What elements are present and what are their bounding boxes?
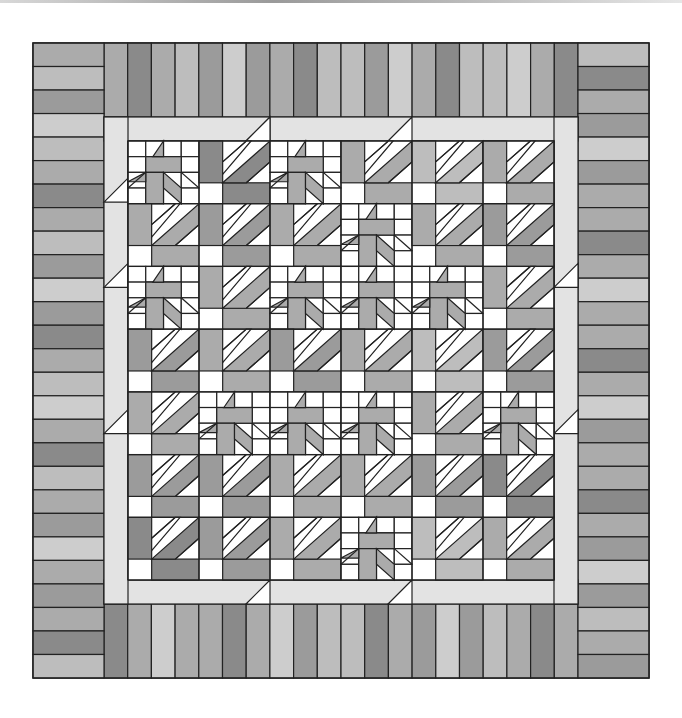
star-grid-cell — [412, 282, 430, 298]
right-border-strip — [578, 67, 649, 91]
star-grid-cell — [465, 282, 483, 298]
star-grid-cell — [394, 533, 412, 549]
pinwheel-bar — [365, 496, 412, 517]
right-border-strip — [578, 513, 649, 537]
left-border-strip — [33, 90, 104, 114]
star-grid-cell — [465, 313, 483, 329]
right-border-strip — [578, 161, 649, 185]
star-grid-cell — [181, 157, 199, 173]
left-border-strip — [33, 396, 104, 420]
star-grid-cell — [128, 313, 146, 329]
bottom-border-strip — [436, 604, 460, 678]
top-border-strip — [151, 43, 175, 117]
pinwheel-bar — [199, 329, 223, 371]
pinwheel-bar — [294, 371, 341, 392]
pinwheel-bar — [507, 308, 554, 329]
left-border-strip — [33, 302, 104, 326]
pinwheel-bar — [152, 371, 199, 392]
pinwheel-bar — [412, 392, 436, 434]
pinwheel-bar — [223, 559, 270, 580]
top-border-strip — [175, 43, 199, 117]
star-grid-cell — [199, 392, 217, 408]
star-bar — [146, 157, 182, 173]
star-grid-cell — [536, 439, 554, 455]
left-border-strip — [33, 513, 104, 537]
star-grid-cell — [412, 266, 430, 282]
right-border-strip — [578, 184, 649, 208]
star-grid-cell — [323, 313, 341, 329]
bottom-border-strip — [554, 604, 578, 678]
pinwheel-bar — [341, 329, 365, 371]
bottom-border-strip — [507, 604, 531, 678]
pinwheel-bar — [507, 496, 554, 517]
pinwheel-bar — [436, 496, 483, 517]
left-border-strip — [33, 607, 104, 631]
star-grid-cell — [341, 282, 359, 298]
star-grid-cell — [252, 408, 270, 424]
pinwheel-bar — [412, 204, 436, 246]
pinwheel-bar — [128, 517, 152, 559]
top-border-strip — [246, 43, 270, 117]
star-grid-cell — [323, 439, 341, 455]
bottom-border-strip — [388, 604, 412, 678]
right-border-strip — [578, 607, 649, 631]
star-bar — [146, 282, 182, 298]
right-border-strip — [578, 278, 649, 302]
right-border-strip — [578, 231, 649, 255]
star-bar — [288, 423, 306, 454]
star-grid-cell — [128, 188, 146, 204]
left-border-strip — [33, 231, 104, 255]
quilt-illustration — [0, 0, 682, 718]
star-grid-cell — [536, 392, 554, 408]
star-grid-cell — [181, 141, 199, 157]
star-grid-cell — [341, 439, 359, 455]
star-grid-cell — [483, 439, 501, 455]
right-border-strip — [578, 325, 649, 349]
top-border-strip — [554, 43, 578, 117]
star-grid-cell — [483, 392, 501, 408]
pinwheel-bar — [412, 329, 436, 371]
star-grid-cell — [270, 141, 288, 157]
star-grid-cell — [394, 266, 412, 282]
star-grid-cell — [394, 313, 412, 329]
pinwheel-bar — [152, 559, 199, 580]
star-grid-cell — [377, 392, 395, 408]
left-border-strip — [33, 184, 104, 208]
right-border-strip — [578, 372, 649, 396]
top-border-strip — [294, 43, 318, 117]
star-grid-cell — [270, 392, 288, 408]
pinwheel-bar — [223, 308, 270, 329]
left-border-strip — [33, 466, 104, 490]
left-border-strip — [33, 208, 104, 232]
star-grid-cell — [199, 408, 217, 424]
right-border-strip — [578, 466, 649, 490]
star-grid-cell — [394, 408, 412, 424]
right-border-strip — [578, 584, 649, 608]
top-border-strip — [365, 43, 389, 117]
star-grid-cell — [270, 439, 288, 455]
top-border-strip — [104, 43, 128, 117]
pinwheel-bar — [128, 329, 152, 371]
pinwheel-bar — [199, 204, 223, 246]
sashing-bottom — [104, 580, 578, 604]
pinwheel-bar — [199, 455, 223, 497]
star-grid-cell — [181, 313, 199, 329]
left-border-strip — [33, 349, 104, 373]
pinwheel-bar — [341, 455, 365, 497]
left-border-strip — [33, 490, 104, 514]
star-grid-cell — [270, 157, 288, 173]
pinwheel-bar — [483, 517, 507, 559]
star-bar — [288, 408, 324, 424]
pinwheel-bar — [223, 246, 270, 267]
star-grid-cell — [341, 219, 359, 235]
right-border-strip — [578, 396, 649, 420]
bottom-border-strip — [317, 604, 341, 678]
pinwheel-bar — [270, 204, 294, 246]
left-border-strip — [33, 654, 104, 678]
star-grid-cell — [519, 392, 537, 408]
star-bar — [359, 533, 395, 549]
pinwheel-bar — [436, 559, 483, 580]
top-border-strip — [270, 43, 294, 117]
top-border-strip — [507, 43, 531, 117]
star-grid-cell — [341, 533, 359, 549]
